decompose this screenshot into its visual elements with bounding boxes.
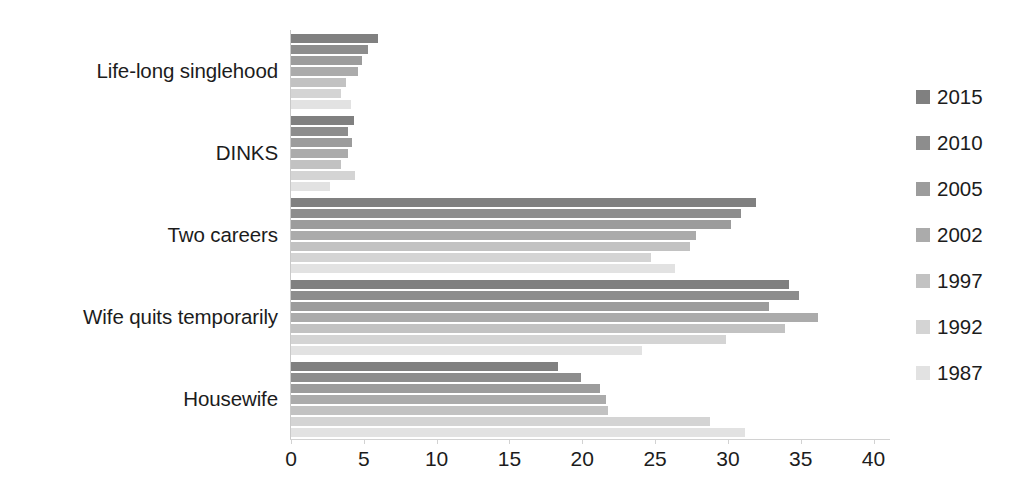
bar-2002-0	[291, 67, 358, 76]
x-tick-label-30: 30	[716, 448, 739, 469]
bar-1997-1	[291, 160, 341, 169]
x-tick-30	[728, 440, 729, 444]
bar-1997-3	[291, 324, 785, 333]
bar-group-0	[291, 30, 891, 112]
y-axis-label-0: Life-long singlehood	[0, 61, 278, 82]
bar-2015-4	[291, 362, 558, 371]
bar-2005-3	[291, 302, 769, 311]
y-axis-label-4: Housewife	[0, 389, 278, 410]
bar-1997-2	[291, 242, 690, 251]
bar-1987-2	[291, 264, 675, 273]
bar-1997-4	[291, 406, 608, 415]
bar-2005-1	[291, 138, 352, 147]
plot-area	[291, 30, 891, 440]
legend-item-2005[interactable]: 2005	[916, 178, 983, 200]
legend-swatch-icon-1992	[916, 320, 930, 334]
bar-1992-4	[291, 417, 710, 426]
bar-1992-0	[291, 89, 341, 98]
x-tick-label-5: 5	[358, 448, 370, 469]
x-tick-label-25: 25	[643, 448, 666, 469]
bar-group-2	[291, 194, 891, 276]
x-tick-25	[655, 440, 656, 444]
bar-1992-1	[291, 171, 355, 180]
y-axis-label-2: Two careers	[0, 225, 278, 246]
bar-group-4	[291, 358, 891, 440]
bar-2010-1	[291, 127, 348, 136]
x-tick-5	[364, 440, 365, 444]
legend-label-2015: 2015	[937, 87, 983, 108]
x-tick-label-15: 15	[498, 448, 521, 469]
legend-label-2002: 2002	[937, 225, 983, 246]
bar-1987-0	[291, 100, 351, 109]
bar-2010-2	[291, 209, 741, 218]
bar-2015-3	[291, 280, 789, 289]
legend-item-2010[interactable]: 2010	[916, 132, 983, 154]
legend-swatch-icon-1987	[916, 366, 930, 380]
x-tick-label-20: 20	[571, 448, 594, 469]
x-tick-35	[801, 440, 802, 444]
bar-group-1	[291, 112, 891, 194]
bar-2002-1	[291, 149, 348, 158]
legend-swatch-icon-2005	[916, 182, 930, 196]
legend-swatch-icon-2015	[916, 90, 930, 104]
legend-label-2010: 2010	[937, 133, 983, 154]
legend-label-1992: 1992	[937, 317, 983, 338]
bar-2002-3	[291, 313, 818, 322]
legend-label-2005: 2005	[937, 179, 983, 200]
x-tick-label-0: 0	[285, 448, 297, 469]
x-tick-15	[509, 440, 510, 444]
bar-1987-3	[291, 346, 642, 355]
bar-2005-4	[291, 384, 600, 393]
bar-1992-3	[291, 335, 726, 344]
legend-label-1997: 1997	[937, 271, 983, 292]
x-tick-label-10: 10	[425, 448, 448, 469]
bar-2005-0	[291, 56, 362, 65]
bar-1997-0	[291, 78, 346, 87]
bar-2015-0	[291, 34, 378, 43]
x-tick-10	[437, 440, 438, 444]
bar-2015-1	[291, 116, 354, 125]
bar-1992-2	[291, 253, 651, 262]
bar-1987-4	[291, 428, 745, 437]
x-tick-label-35: 35	[789, 448, 812, 469]
legend-swatch-icon-1997	[916, 274, 930, 288]
y-axis-label-1: DINKS	[0, 143, 278, 164]
legend-swatch-icon-2010	[916, 136, 930, 150]
legend-item-1987[interactable]: 1987	[916, 362, 983, 384]
x-tick-0	[291, 440, 292, 444]
legend-swatch-icon-2002	[916, 228, 930, 242]
bar-2010-4	[291, 373, 581, 382]
legend-item-1997[interactable]: 1997	[916, 270, 983, 292]
x-axis-tick-labels: 0510152025303540	[291, 448, 911, 482]
legend-item-2002[interactable]: 2002	[916, 224, 983, 246]
bar-2005-2	[291, 220, 731, 229]
legend-label-1987: 1987	[937, 363, 983, 384]
bar-chart: Life-long singlehoodDINKSTwo careersWife…	[0, 0, 1025, 504]
bar-group-3	[291, 276, 891, 358]
bar-2002-4	[291, 395, 606, 404]
bar-1987-1	[291, 182, 330, 191]
legend-item-1992[interactable]: 1992	[916, 316, 983, 338]
bar-2010-3	[291, 291, 799, 300]
legend-item-2015[interactable]: 2015	[916, 86, 983, 108]
y-axis-label-3: Wife quits temporarily	[0, 307, 278, 328]
bar-2015-2	[291, 198, 756, 207]
x-tick-label-40: 40	[862, 448, 885, 469]
bar-2010-0	[291, 45, 368, 54]
x-tick-40	[874, 440, 875, 444]
x-tick-20	[582, 440, 583, 444]
y-axis-category-labels: Life-long singlehoodDINKSTwo careersWife…	[0, 30, 278, 440]
bar-2002-2	[291, 231, 696, 240]
